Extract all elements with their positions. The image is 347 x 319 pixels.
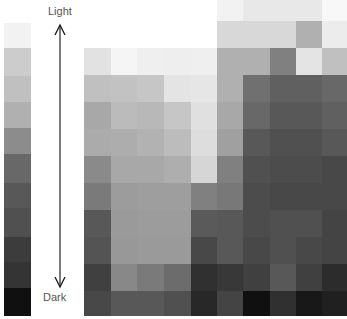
grid-cell xyxy=(84,0,111,21)
grid-cell xyxy=(270,237,296,264)
grid-cell xyxy=(191,264,217,291)
grid-cell xyxy=(322,156,347,183)
grid-cell xyxy=(84,21,111,48)
light-label: Light xyxy=(48,5,72,17)
grid-cell xyxy=(111,156,137,183)
grid-cell xyxy=(84,237,111,264)
grid-cell xyxy=(270,21,296,48)
grid-cell xyxy=(243,102,270,129)
grid-cell xyxy=(243,291,270,316)
grid-cell xyxy=(191,237,217,264)
grid-cell xyxy=(191,75,217,102)
grid-cell xyxy=(217,291,243,316)
grid-cell xyxy=(243,183,270,210)
grid-cell xyxy=(111,129,137,156)
legend-swatch xyxy=(4,102,31,128)
grid-cell xyxy=(270,129,296,156)
grid-cell xyxy=(191,21,217,48)
legend-swatch xyxy=(4,183,31,208)
grid-cell xyxy=(217,237,243,264)
grid-cell xyxy=(137,291,164,316)
grid-cell xyxy=(322,102,347,129)
grid-cell xyxy=(243,210,270,237)
legend-swatch xyxy=(4,288,31,316)
grid-cell xyxy=(322,75,347,102)
grid-cell xyxy=(322,21,347,48)
grid-cell xyxy=(322,210,347,237)
grid-cell xyxy=(296,237,322,264)
grid-cell xyxy=(137,21,164,48)
grid-cell xyxy=(217,264,243,291)
grid-cell xyxy=(164,156,191,183)
grid-cell xyxy=(84,264,111,291)
grid-cell xyxy=(217,210,243,237)
grid-cell xyxy=(84,291,111,316)
grid-cell xyxy=(270,210,296,237)
grid-cell xyxy=(217,129,243,156)
grid-cell xyxy=(191,102,217,129)
grid-cell xyxy=(111,237,137,264)
grid-cell xyxy=(137,48,164,75)
grid-cell xyxy=(164,264,191,291)
grid-cell xyxy=(296,48,322,75)
grid-cell xyxy=(322,0,347,21)
grid-cell xyxy=(137,0,164,21)
grid-cell xyxy=(296,129,322,156)
grid-cell xyxy=(111,264,137,291)
grid-cell xyxy=(296,102,322,129)
grid-cell xyxy=(137,156,164,183)
grid-cell xyxy=(322,237,347,264)
legend-swatch xyxy=(4,48,31,76)
grid-cell xyxy=(137,264,164,291)
grid-cell xyxy=(217,183,243,210)
double-headed-arrow-icon xyxy=(50,22,70,290)
grid-cell xyxy=(217,0,243,21)
grid-cell xyxy=(322,129,347,156)
grid-cell xyxy=(296,75,322,102)
grid-cell xyxy=(84,102,111,129)
legend-swatch xyxy=(4,237,31,262)
grid-cell xyxy=(111,210,137,237)
grid-cell xyxy=(243,129,270,156)
grid-cell xyxy=(164,129,191,156)
grid-cell xyxy=(243,156,270,183)
grid-cell xyxy=(84,183,111,210)
grid-cell xyxy=(270,75,296,102)
grid-cell xyxy=(243,75,270,102)
grid-cell xyxy=(296,156,322,183)
grid-cell xyxy=(322,183,347,210)
grid-cell xyxy=(164,21,191,48)
grid-cell xyxy=(191,129,217,156)
legend-swatch xyxy=(4,154,31,183)
grid-cell xyxy=(164,237,191,264)
grid-cell xyxy=(270,156,296,183)
legend-swatch xyxy=(4,128,31,154)
grid-cell xyxy=(137,210,164,237)
legend-swatch xyxy=(4,23,31,48)
grid-cell xyxy=(191,291,217,316)
grid-cell xyxy=(111,48,137,75)
grid-cell xyxy=(191,183,217,210)
legend-swatch xyxy=(4,208,31,237)
grid-cell xyxy=(111,291,137,316)
grid-cell xyxy=(270,48,296,75)
grid-cell xyxy=(84,48,111,75)
grid-cell xyxy=(164,48,191,75)
grid-cell xyxy=(137,102,164,129)
grid-cell xyxy=(84,75,111,102)
grid-cell xyxy=(270,183,296,210)
grid-cell xyxy=(137,129,164,156)
grid-cell xyxy=(84,210,111,237)
grid-cell xyxy=(322,291,347,316)
legend-swatch xyxy=(4,262,31,288)
grid-cell xyxy=(191,210,217,237)
grid-cell xyxy=(243,0,270,21)
grid-cell xyxy=(111,0,137,21)
grid-cell xyxy=(243,48,270,75)
grid-cell xyxy=(164,210,191,237)
grid-cell xyxy=(164,102,191,129)
grid-cell xyxy=(137,183,164,210)
grid-cell xyxy=(217,48,243,75)
grid-cell xyxy=(296,210,322,237)
legend-swatch xyxy=(4,76,31,102)
